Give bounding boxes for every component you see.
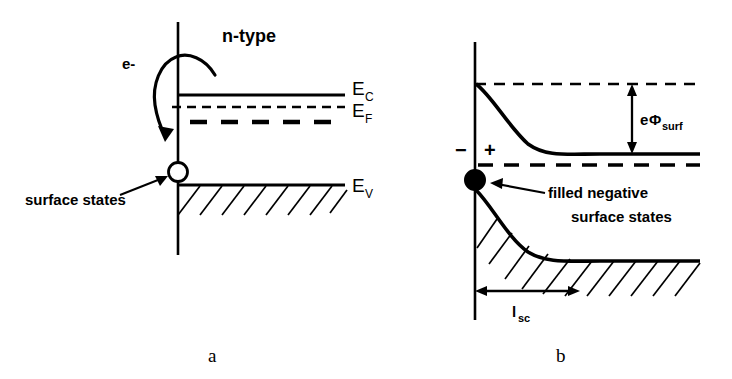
panel-a-band-labels: E C E F E V — [352, 78, 374, 201]
depletion-width-arrowhead-left — [475, 286, 487, 296]
label-fermi-level-sub: F — [365, 112, 372, 126]
panel-b-caption: b — [556, 345, 566, 366]
band-diagram-svg: e- n-type surface states E C E F E V a — [0, 0, 732, 379]
label-valence-band-sub: V — [365, 187, 373, 201]
positive-charge-label: + — [484, 139, 496, 161]
label-conduction-band-sub: C — [365, 90, 374, 104]
panel-a-valence-hatching — [178, 186, 347, 215]
label-conduction-band: E — [352, 78, 365, 99]
depletion-width-label-group: l sc — [512, 303, 530, 324]
barrier-height-e: e — [640, 111, 648, 128]
filled-negative-label-line2: surface states — [571, 208, 672, 225]
barrier-height-phi-icon: Φ — [649, 111, 661, 128]
panel-a-caption: a — [208, 345, 217, 366]
barrier-height-sub: surf — [662, 120, 683, 132]
label-fermi-level: E — [352, 100, 365, 121]
empty-surface-state-circle — [169, 163, 188, 182]
panel-a: e- n-type surface states E C E F E V a — [25, 22, 374, 366]
electron-label: e- — [122, 55, 135, 72]
depletion-width-sub: sc — [518, 312, 530, 324]
filled-surface-states-pointer-line — [497, 184, 545, 193]
figure-root: e- n-type surface states E C E F E V a — [0, 0, 732, 379]
label-valence-band: E — [352, 175, 365, 196]
filled-negative-label-line1: filled negative — [548, 184, 648, 201]
doping-type-label: n-type — [222, 26, 276, 46]
barrier-height-arrowhead-top — [627, 84, 637, 96]
barrier-height-label-group: e Φ surf — [640, 111, 683, 132]
filled-surface-state-dot — [465, 170, 485, 190]
filled-surface-states-pointer-arrowhead — [490, 178, 503, 189]
depletion-width-l: l — [512, 303, 516, 320]
panel-b-valence-hatching — [477, 219, 700, 296]
surface-states-label: surface states — [25, 191, 126, 208]
panel-b: e Φ surf − + filled negative surface sta… — [455, 42, 700, 366]
surface-states-pointer-line — [120, 178, 163, 195]
depletion-width-arrowhead-right — [568, 286, 580, 296]
negative-charge-label: − — [455, 139, 467, 161]
electron-capture-arrowhead — [158, 126, 174, 142]
